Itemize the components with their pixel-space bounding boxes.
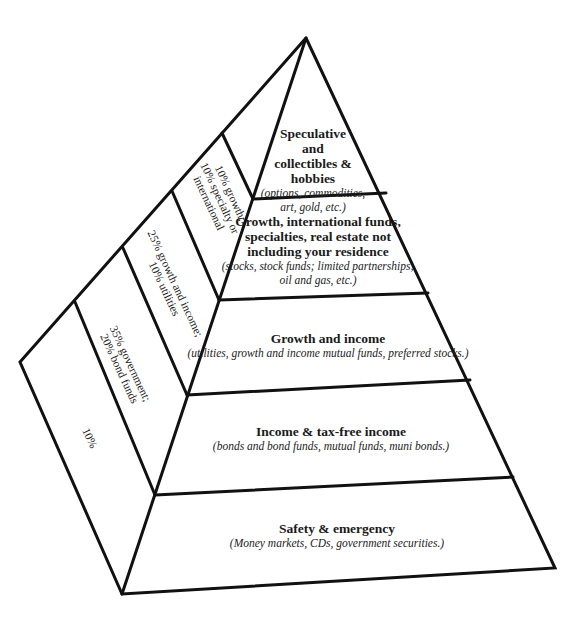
tier-speculative-sub-1: (options, commodities, <box>261 186 365 200</box>
tier-income-title: Income & tax-free income <box>213 424 449 439</box>
tier-speculative-title-3: collectibles & <box>261 156 365 171</box>
tier-growth-income-sub: (utilities, growth and income mutual fun… <box>187 346 468 360</box>
tier-speculative-title-1: Speculative <box>261 126 365 141</box>
tier-growth-and-income: Growth and income (utilities, growth and… <box>187 331 468 360</box>
tier-income-sub: (bonds and bond funds, mutual funds, mun… <box>213 439 449 453</box>
tier-growth-title-3: including your residence <box>222 244 415 259</box>
tier-growth-income-title: Growth and income <box>187 331 468 346</box>
tier-safety-title: Safety & emergency <box>230 521 444 536</box>
tier-speculative: Speculative and collectibles & hobbies (… <box>261 126 365 214</box>
tier-growth-sub-2: oil and gas, etc.) <box>222 273 415 287</box>
tier-speculative-title-4: hobbies <box>261 171 365 186</box>
tier-growth-sub-1: (stocks, stock funds; limited partnershi… <box>222 259 415 273</box>
tier-speculative-title-2: and <box>261 141 365 156</box>
tier-safety-emergency: Safety & emergency (Money markets, CDs, … <box>230 521 444 550</box>
tier-safety-sub: (Money markets, CDs, government securiti… <box>230 536 444 550</box>
tier-speculative-sub-2: art, gold, etc.) <box>261 200 365 214</box>
tier-income-tax-free: Income & tax-free income (bonds and bond… <box>213 424 449 453</box>
